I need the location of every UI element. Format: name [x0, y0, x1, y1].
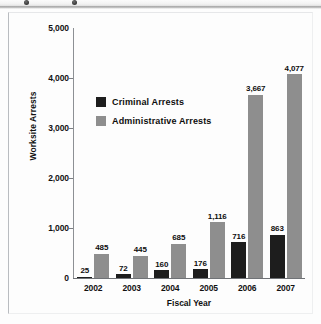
bar-value-label: 716 — [232, 232, 245, 241]
bar-criminal-2005[interactable]: 176 — [193, 269, 208, 278]
dot-icon[interactable] — [24, 0, 29, 5]
bar-administrative-2003[interactable]: 445 — [133, 256, 148, 278]
bar-administrative-2002[interactable]: 485 — [94, 254, 109, 278]
bar-value-label: 863 — [271, 224, 284, 233]
bar-value-label: 485 — [95, 243, 108, 252]
x-axis-tick-label: 2007 — [263, 283, 309, 293]
x-axis-title: Fiscal Year — [73, 298, 305, 308]
bar-value-label: 3,667 — [246, 84, 265, 93]
truncated-toolbar — [0, 0, 321, 9]
bar-group: 72445 — [114, 28, 150, 278]
bar-criminal-2006[interactable]: 716 — [231, 242, 246, 278]
y-axis-tick-label: 2,000 — [23, 173, 69, 183]
x-axis-line — [73, 278, 305, 279]
bar-value-label: 176 — [194, 259, 207, 268]
bar-group: 7163,667 — [229, 28, 265, 278]
bar-administrative-2006[interactable]: 3,667 — [248, 95, 263, 278]
bar-administrative-2004[interactable]: 685 — [171, 244, 186, 278]
plot-area: 25485724451606851761,1167163,6678634,077 — [74, 28, 305, 278]
bar-value-label: 25 — [80, 266, 89, 275]
y-axis-tick-label: 5,000 — [23, 23, 69, 33]
bar-value-label: 1,116 — [208, 212, 227, 221]
bar-value-label: 445 — [134, 245, 147, 254]
bar-value-label: 72 — [119, 264, 128, 273]
bar-criminal-2007[interactable]: 863 — [270, 235, 285, 278]
bar-value-label: 4,077 — [285, 64, 304, 73]
bar-criminal-2002[interactable]: 25 — [77, 277, 92, 278]
bar-administrative-2007[interactable]: 4,077 — [287, 74, 302, 278]
bar-group: 160685 — [152, 28, 188, 278]
screenshot-root: Worksite Arrests 01,0002,0003,0004,0005,… — [0, 0, 321, 324]
bar-group: 8634,077 — [268, 28, 304, 278]
bar-criminal-2004[interactable]: 160 — [154, 270, 169, 278]
dot-icon[interactable] — [72, 0, 77, 5]
chart-figure-panel: Worksite Arrests 01,0002,0003,0004,0005,… — [8, 12, 313, 314]
bar-group: 25485 — [75, 28, 111, 278]
y-axis-tick-label: 0 — [23, 273, 69, 283]
bar-criminal-2003[interactable]: 72 — [116, 274, 131, 278]
bar-value-label: 685 — [172, 233, 185, 242]
bar-group: 1761,116 — [191, 28, 227, 278]
bar-administrative-2005[interactable]: 1,116 — [210, 222, 225, 278]
y-axis-tick-label: 3,000 — [23, 123, 69, 133]
bar-value-label: 160 — [155, 260, 168, 269]
y-axis-tick-label: 4,000 — [23, 73, 69, 83]
y-axis-tick-label: 1,000 — [23, 223, 69, 233]
